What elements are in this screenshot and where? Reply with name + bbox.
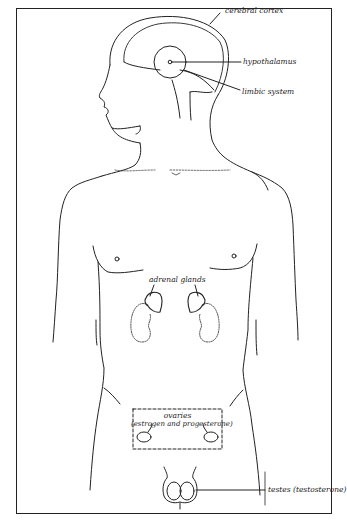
head-outline [99, 16, 268, 190]
hypothalamus-dot [168, 60, 172, 64]
body-illustration [0, 0, 347, 525]
label-testes: testes (testosterone) [268, 486, 346, 494]
label-adrenal-glands: adrenal glands [149, 276, 206, 284]
cortex-leader [210, 13, 220, 24]
adrenal-leader-left [150, 285, 154, 296]
adrenal-glands [145, 292, 205, 312]
label-limbic-system: limbic system [242, 88, 294, 96]
limbic-leader [184, 70, 240, 90]
ovary-left [137, 432, 151, 442]
torso-outline [53, 170, 298, 495]
label-cerebral-cortex: cerebral cortex [225, 7, 283, 15]
kidneys [131, 304, 219, 342]
testes [163, 467, 197, 509]
label-ovaries: ovaries [133, 412, 222, 420]
adrenal-leader-right [195, 285, 198, 296]
label-hypothalamus: hypothalamus [243, 58, 296, 66]
label-ovaries-hormones: (estrogen and progesterone) [131, 421, 224, 428]
ovary-right [204, 432, 218, 442]
